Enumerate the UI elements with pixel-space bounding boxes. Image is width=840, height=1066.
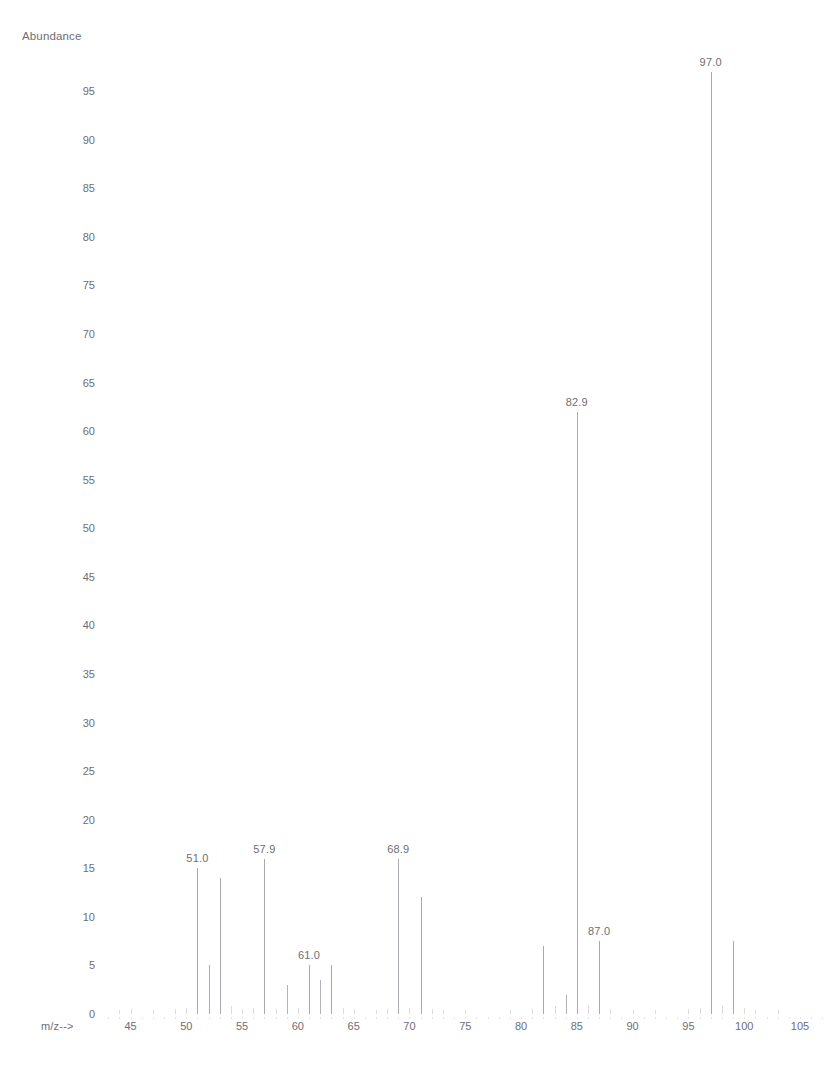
spectrum-peak: [566, 995, 567, 1014]
spectrum-peak: [421, 897, 422, 1014]
spectrum-peak: [298, 1008, 299, 1014]
peak-label: 82.9: [566, 396, 588, 408]
x-minor-tick: [264, 1017, 265, 1019]
x-minor-tick: [276, 1017, 277, 1019]
spectrum-peak: [376, 1010, 377, 1014]
spectrum-peak: [119, 1010, 120, 1014]
x-minor-tick: [164, 1017, 165, 1019]
x-minor-tick: [108, 1017, 109, 1019]
peak-label: 57.9: [253, 843, 275, 855]
x-minor-tick: [488, 1017, 489, 1019]
x-minor-tick: [387, 1017, 388, 1019]
mass-spectrum-page: Abundance 051015202530354045505560657075…: [0, 0, 840, 1066]
spectrum-peak: [398, 859, 399, 1014]
x-minor-tick: [722, 1017, 723, 1019]
x-minor-tick: [711, 1017, 712, 1019]
x-minor-tick: [532, 1017, 533, 1019]
spectrum-peak: [276, 1009, 277, 1014]
x-minor-tick: [521, 1017, 522, 1019]
x-minor-tick: [186, 1017, 187, 1019]
x-minor-tick: [644, 1017, 645, 1019]
spectrum-peak: [432, 1009, 433, 1014]
x-minor-tick: [800, 1017, 801, 1019]
x-minor-tick: [432, 1017, 433, 1019]
spectrum-peak: [610, 1009, 611, 1014]
spectrum-peak: [264, 859, 265, 1014]
spectrum-peak: [543, 946, 544, 1014]
spectrum-peak: [588, 1005, 589, 1014]
peak-label: 61.0: [298, 949, 320, 961]
x-minor-tick: [744, 1017, 745, 1019]
spectrum-peak: [711, 72, 712, 1014]
spectrum-peak: [387, 1009, 388, 1014]
x-minor-tick: [633, 1017, 634, 1019]
peak-label: 87.0: [588, 925, 610, 937]
spectrum-peak: [309, 965, 310, 1014]
spectrum-peak: [755, 1010, 756, 1014]
spectrum-peak: [443, 1010, 444, 1014]
spectrum-peak: [722, 1006, 723, 1014]
x-minor-tick: [543, 1017, 544, 1019]
spectrum-peak: [343, 1008, 344, 1014]
x-minor-tick: [320, 1017, 321, 1019]
spectrum-peak: [409, 1008, 410, 1014]
spectrum-peak: [197, 868, 198, 1014]
x-minor-tick: [822, 1017, 823, 1019]
x-minor-tick: [454, 1017, 455, 1019]
x-minor-tick: [131, 1017, 132, 1019]
spectrum-peak: [186, 1008, 187, 1014]
spectrum-peak: [510, 1010, 511, 1014]
x-minor-tick: [197, 1017, 198, 1019]
spectrum-peak: [599, 941, 600, 1014]
x-minor-tick: [733, 1017, 734, 1019]
spectrum-peak: [331, 965, 332, 1014]
x-minor-tick: [677, 1017, 678, 1019]
x-minor-tick: [331, 1017, 332, 1019]
x-minor-tick: [421, 1017, 422, 1019]
spectrum-peak: [175, 1009, 176, 1014]
x-minor-tick: [610, 1017, 611, 1019]
x-minor-tick: [220, 1017, 221, 1019]
x-minor-tick: [789, 1017, 790, 1019]
x-minor-tick: [365, 1017, 366, 1019]
spectrum-peak: [577, 412, 578, 1014]
x-minor-tick: [700, 1017, 701, 1019]
spectrum-peak: [633, 1010, 634, 1014]
x-minor-tick: [476, 1017, 477, 1019]
x-minor-tick: [354, 1017, 355, 1019]
x-minor-tick: [621, 1017, 622, 1019]
x-minor-tick: [409, 1017, 410, 1019]
x-minor-tick: [287, 1017, 288, 1019]
spectrum-peak: [320, 980, 321, 1014]
spectrum-peak: [555, 1006, 556, 1014]
x-minor-tick: [778, 1017, 779, 1019]
spectrum-peak: [253, 1008, 254, 1014]
x-minor-tick: [253, 1017, 254, 1019]
x-minor-tick: [588, 1017, 589, 1019]
x-minor-tick: [811, 1017, 812, 1019]
spectrum-peak: [209, 965, 210, 1014]
x-minor-tick: [119, 1017, 120, 1019]
spectrum-peak: [655, 1010, 656, 1014]
x-minor-tick: [376, 1017, 377, 1019]
x-minor-tick: [555, 1017, 556, 1019]
x-minor-tick: [153, 1017, 154, 1019]
spectrum-peak: [131, 1009, 132, 1014]
spectrum-peak: [153, 1010, 154, 1014]
peak-label: 51.0: [186, 852, 208, 864]
x-minor-tick: [577, 1017, 578, 1019]
x-minor-tick: [209, 1017, 210, 1019]
peak-label: 97.0: [700, 56, 722, 68]
x-minor-tick: [688, 1017, 689, 1019]
x-minor-tick: [755, 1017, 756, 1019]
x-minor-tick: [443, 1017, 444, 1019]
x-minor-tick: [599, 1017, 600, 1019]
x-minor-tick: [175, 1017, 176, 1019]
spectrum-peak: [242, 1009, 243, 1014]
x-minor-tick: [666, 1017, 667, 1019]
spectrum-peak: [287, 985, 288, 1014]
x-minor-tick: [242, 1017, 243, 1019]
x-minor-tick: [398, 1017, 399, 1019]
spectrum-peak: [354, 1009, 355, 1014]
x-minor-tick: [231, 1017, 232, 1019]
